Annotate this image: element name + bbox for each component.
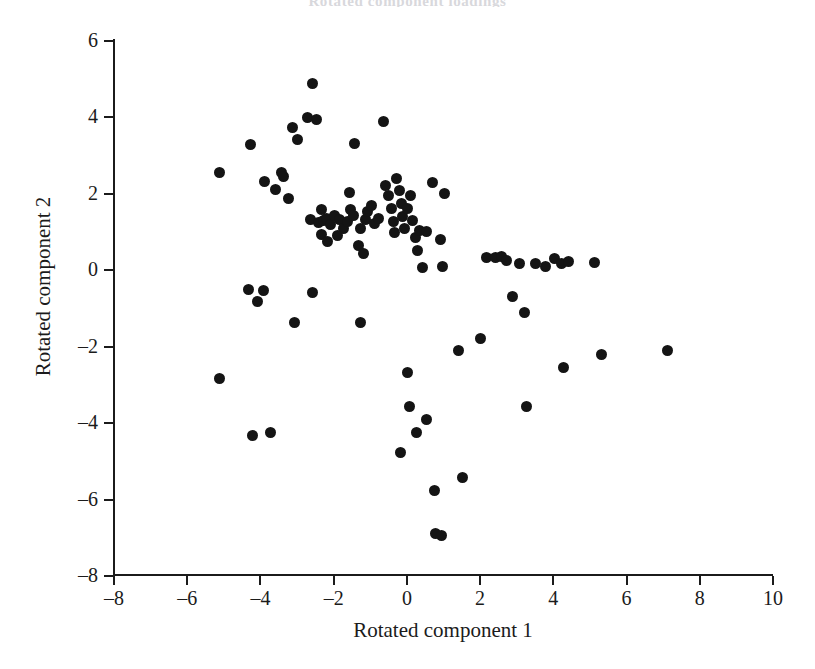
data-point — [366, 200, 377, 211]
data-point — [421, 414, 432, 425]
x-axis-title: Rotated component 1 — [113, 618, 773, 643]
y-tick-label: 2 — [52, 183, 98, 203]
y-tick-mark — [104, 269, 113, 271]
data-point — [307, 287, 318, 298]
data-point — [437, 261, 448, 272]
data-point — [344, 187, 355, 198]
data-point — [383, 190, 394, 201]
plot-area — [113, 40, 772, 575]
x-tick-label: 4 — [548, 588, 558, 608]
scatter-plot-figure: Rotated component loadings –8–6–4–20246 … — [0, 0, 815, 669]
data-point — [596, 349, 607, 360]
data-point — [287, 122, 298, 133]
x-tick-label: 2 — [475, 588, 485, 608]
data-point — [453, 345, 464, 356]
data-point — [589, 257, 600, 268]
y-tick-mark — [104, 116, 113, 118]
data-point — [214, 373, 225, 384]
y-tick-mark — [104, 499, 113, 501]
data-point — [519, 307, 530, 318]
x-tick-mark — [186, 576, 188, 585]
y-axis-title: Rotated component 2 — [31, 7, 56, 567]
data-point — [386, 203, 397, 214]
data-point — [412, 245, 423, 256]
x-tick-mark — [259, 576, 261, 585]
data-point — [439, 188, 450, 199]
data-point — [427, 177, 438, 188]
x-tick-mark — [699, 576, 701, 585]
data-point — [373, 213, 384, 224]
data-point — [265, 427, 276, 438]
y-tick-label: –8 — [52, 565, 98, 585]
data-point — [332, 230, 343, 241]
data-point — [521, 401, 532, 412]
data-point — [395, 447, 406, 458]
y-tick-label: –6 — [52, 489, 98, 509]
x-tick-mark — [113, 576, 115, 585]
data-point — [378, 116, 389, 127]
data-point — [243, 284, 254, 295]
y-tick-label: 4 — [52, 106, 98, 126]
data-point — [457, 472, 468, 483]
data-point — [435, 234, 446, 245]
data-point — [214, 167, 225, 178]
data-point — [421, 226, 432, 237]
x-tick-mark — [772, 576, 774, 585]
x-tick-label: –2 — [324, 588, 344, 608]
x-tick-label: 10 — [763, 588, 783, 608]
data-point — [283, 193, 294, 204]
x-tick-mark — [552, 576, 554, 585]
x-tick-mark — [479, 576, 481, 585]
x-tick-mark — [406, 576, 408, 585]
data-point — [289, 317, 300, 328]
data-point — [501, 255, 512, 266]
data-point — [391, 173, 402, 184]
data-point — [407, 215, 418, 226]
x-tick-label: –4 — [250, 588, 270, 608]
data-point — [507, 291, 518, 302]
data-point — [259, 176, 270, 187]
data-point — [358, 248, 369, 259]
data-point — [349, 138, 360, 149]
y-tick-mark — [104, 422, 113, 424]
data-point — [258, 285, 269, 296]
y-tick-label: 0 — [52, 259, 98, 279]
data-point — [563, 256, 574, 267]
data-point — [355, 317, 366, 328]
data-point — [394, 185, 405, 196]
y-tick-mark — [104, 40, 113, 42]
data-point — [252, 296, 263, 307]
data-point — [322, 236, 333, 247]
data-point — [475, 333, 486, 344]
data-point — [402, 203, 413, 214]
x-tick-label: 0 — [402, 588, 412, 608]
data-point — [402, 367, 413, 378]
data-point — [411, 427, 422, 438]
data-point — [540, 261, 551, 272]
data-point — [278, 171, 289, 182]
data-point — [417, 262, 428, 273]
x-tick-mark — [333, 576, 335, 585]
y-tick-label: 6 — [52, 30, 98, 50]
y-tick-mark — [104, 575, 113, 577]
y-tick-label: –4 — [52, 412, 98, 432]
data-point — [270, 184, 281, 195]
y-tick-mark — [104, 346, 113, 348]
data-point — [662, 345, 673, 356]
data-point — [405, 190, 416, 201]
data-point — [247, 430, 258, 441]
data-point — [558, 362, 569, 373]
data-point — [311, 114, 322, 125]
data-point — [307, 78, 318, 89]
data-point — [404, 401, 415, 412]
x-tick-label: 6 — [622, 588, 632, 608]
y-tick-mark — [104, 193, 113, 195]
data-point — [514, 258, 525, 269]
data-point — [292, 134, 303, 145]
data-point — [348, 210, 359, 221]
data-point — [245, 139, 256, 150]
data-point — [429, 485, 440, 496]
x-tick-label: 8 — [695, 588, 705, 608]
x-tick-label: –8 — [104, 588, 124, 608]
x-tick-label: –6 — [177, 588, 197, 608]
